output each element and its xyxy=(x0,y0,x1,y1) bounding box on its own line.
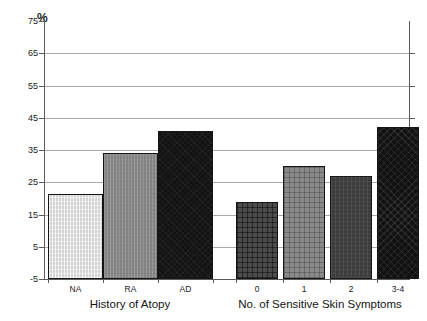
y-tick-right-45 xyxy=(409,118,415,119)
x-tick-g2-2 xyxy=(330,279,331,283)
x-tick-g2-1 xyxy=(283,279,284,283)
y-tick-label-15: 15 xyxy=(28,211,38,220)
x-tick-g1-3 xyxy=(213,279,214,283)
y-tick-right-55 xyxy=(409,86,415,87)
y-tick-label-35: 35 xyxy=(28,146,38,155)
y-tick--5 xyxy=(39,279,45,280)
y-tick-label-45: 45 xyxy=(28,114,38,123)
bars-layer xyxy=(45,21,409,279)
bar-1[interactable] xyxy=(283,166,325,279)
bar-chart: % 75 65 55 45 35 25 15 5 -5 xyxy=(0,0,427,321)
y-tick-label-75: 75 xyxy=(28,17,38,26)
y-tick-label-55: 55 xyxy=(28,82,38,91)
bar-0[interactable] xyxy=(236,202,278,279)
x-axis-title-history-of-atopy: History of Atopy xyxy=(40,298,220,310)
x-tick-g1-2 xyxy=(158,279,159,283)
bar-na[interactable] xyxy=(48,194,103,279)
y-tick-label--5: -5 xyxy=(30,275,38,284)
y-tick-label-25: 25 xyxy=(28,178,38,187)
x-tick-g1-0 xyxy=(48,279,49,283)
bar-ra[interactable] xyxy=(103,153,158,279)
x-label-ad: AD xyxy=(158,285,213,294)
y-tick-label-65: 65 xyxy=(28,49,38,58)
x-tick-g2-3 xyxy=(377,279,378,283)
x-label-3-4: 3-4 xyxy=(377,285,419,294)
bar-2[interactable] xyxy=(330,176,372,279)
x-axis-title-sensitive-skin-symptoms: No. of Sensitive Skin Symptoms xyxy=(215,298,425,310)
x-label-2: 2 xyxy=(330,285,372,294)
y-tick-right-65 xyxy=(409,53,415,54)
bar-ad[interactable] xyxy=(158,131,213,279)
y-tick-label-5: 5 xyxy=(33,243,38,252)
x-label-0: 0 xyxy=(236,285,278,294)
x-label-1: 1 xyxy=(283,285,325,294)
x-label-na: NA xyxy=(48,285,103,294)
x-tick-g1-1 xyxy=(103,279,104,283)
bar-3-4[interactable] xyxy=(377,127,419,279)
x-tick-g2-0 xyxy=(236,279,237,283)
x-axis-line xyxy=(45,279,409,280)
x-label-ra: RA xyxy=(103,285,158,294)
